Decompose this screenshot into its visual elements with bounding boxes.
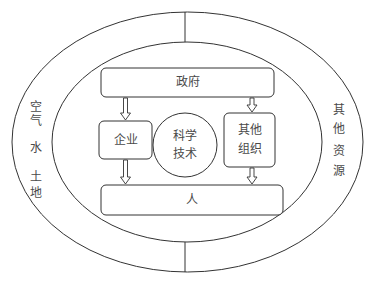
ring-left-label-3: 土	[29, 171, 43, 183]
other-orgs-label-line1: 其他	[224, 124, 275, 136]
ring-right-label-2: 资	[332, 145, 346, 157]
arrow-gov-to-other-orgs-icon	[247, 98, 257, 112]
government-label: 政府	[101, 76, 274, 88]
science-tech-circle	[153, 113, 217, 177]
arrow-other-orgs-to-people-icon	[247, 168, 257, 184]
science-tech-label-line2: 技术	[153, 148, 217, 160]
enterprise-label: 企业	[99, 134, 152, 146]
people-label: 人	[101, 194, 283, 206]
ring-right-label-1: 他	[332, 123, 346, 135]
other-orgs-box	[224, 113, 275, 167]
arrow-gov-to-enterprise-icon	[121, 98, 131, 120]
arrow-enterprise-to-people-icon	[121, 160, 131, 184]
ring-left-label-2: 水	[29, 142, 43, 154]
ring-left-label-4: 地	[29, 187, 43, 199]
ring-left-label-0: 空	[29, 101, 43, 113]
ring-right-label-0: 其	[332, 104, 346, 116]
ring-right-label-3: 源	[332, 165, 346, 177]
other-orgs-label-line2: 组织	[224, 143, 275, 155]
science-tech-label-line1: 科学	[153, 130, 217, 142]
ring-left-label-1: 气	[29, 115, 43, 127]
